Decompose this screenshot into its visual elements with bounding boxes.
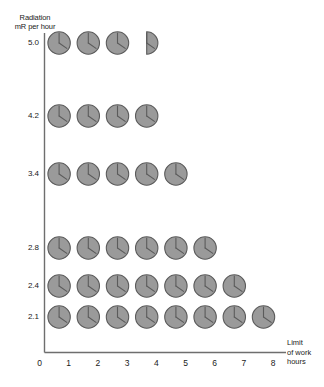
clock-symbol (165, 163, 187, 185)
clock-symbol (106, 105, 128, 127)
axis-lines (45, 33, 287, 353)
clock-symbol (136, 306, 158, 328)
clock-symbol (77, 32, 99, 54)
clock-symbol (77, 237, 99, 259)
clock-symbol (165, 275, 187, 297)
pictogram-chart: Radiation mR per hour Limit of work hour… (0, 0, 324, 387)
clock-symbol (48, 105, 70, 127)
plot-area (0, 0, 324, 387)
clock-symbol (252, 306, 274, 328)
clock-symbol (136, 163, 158, 185)
clock-symbol (77, 306, 99, 328)
clock-symbol (106, 275, 128, 297)
clock-symbol (165, 306, 187, 328)
clock-symbol (106, 237, 128, 259)
clock-symbol (48, 163, 70, 185)
clock-symbol (165, 237, 187, 259)
clock-symbol (136, 105, 158, 127)
clock-symbol (223, 306, 245, 328)
clock-symbol (77, 163, 99, 185)
clock-symbol-layer (48, 32, 275, 328)
clock-symbol (136, 275, 158, 297)
clock-symbol (48, 32, 70, 54)
clock-symbol (77, 275, 99, 297)
clock-symbol (136, 237, 158, 259)
clock-symbol (48, 306, 70, 328)
clock-symbol (223, 275, 245, 297)
clock-symbol (194, 306, 216, 328)
clock-symbol-partial (147, 32, 158, 54)
clock-symbol (48, 275, 70, 297)
clock-symbol (106, 32, 128, 54)
clock-symbol (194, 275, 216, 297)
clock-symbol (194, 237, 216, 259)
clock-symbol (77, 105, 99, 127)
clock-symbol (106, 163, 128, 185)
clock-symbol (48, 237, 70, 259)
clock-symbol (106, 306, 128, 328)
